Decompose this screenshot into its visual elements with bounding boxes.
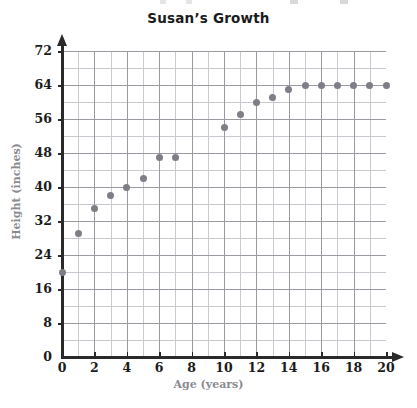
y-tick-label: 64 [10, 77, 52, 92]
y-tick [58, 221, 63, 223]
data-point [91, 205, 98, 212]
y-tick-label: 0 [10, 349, 52, 364]
data-point [302, 82, 309, 89]
y-tick-label: 56 [10, 111, 52, 126]
y-axis-line [61, 44, 64, 358]
data-point [140, 175, 147, 182]
y-tick-label: 16 [10, 281, 52, 296]
y-tick-label: 8 [10, 315, 52, 330]
x-axis-title: Age (years) [0, 378, 417, 391]
scan-artifact [150, 0, 380, 4]
data-point [172, 154, 179, 161]
data-point [123, 184, 130, 191]
x-tick [192, 352, 194, 357]
data-point [59, 269, 66, 276]
x-axis-line [61, 356, 394, 359]
x-tick [159, 352, 161, 357]
data-point [318, 82, 325, 89]
x-tick-label: 20 [366, 360, 406, 375]
chart-title: Susan’s Growth [0, 10, 417, 26]
x-tick [354, 352, 356, 357]
y-tick [58, 255, 63, 257]
x-tick [256, 352, 258, 357]
data-point [156, 154, 163, 161]
y-tick [58, 85, 63, 87]
y-tick [58, 51, 63, 53]
y-tick [58, 289, 63, 291]
x-tick [386, 352, 388, 357]
y-axis-arrow-icon [57, 34, 67, 46]
y-tick [58, 153, 63, 155]
data-point [366, 82, 373, 89]
x-tick [321, 352, 323, 357]
major-gridlines [62, 51, 386, 357]
y-tick-label: 72 [10, 43, 52, 58]
data-point [237, 111, 244, 118]
data-point [350, 82, 357, 89]
data-point [383, 82, 390, 89]
y-axis-title: Height (inches) [10, 132, 23, 252]
data-point [221, 124, 228, 131]
data-point [334, 82, 341, 89]
x-tick [62, 352, 64, 357]
x-tick [94, 352, 96, 357]
data-point [75, 230, 82, 237]
x-tick [289, 352, 291, 357]
y-tick [58, 187, 63, 189]
x-tick [127, 352, 129, 357]
chart-page: Susan’s Growth 02468101214161820 0816243… [0, 0, 417, 408]
y-tick [58, 323, 63, 325]
plot-area [62, 51, 386, 357]
y-tick [58, 119, 63, 121]
minor-gridlines [62, 51, 386, 357]
x-tick [224, 352, 226, 357]
data-point [253, 99, 260, 106]
